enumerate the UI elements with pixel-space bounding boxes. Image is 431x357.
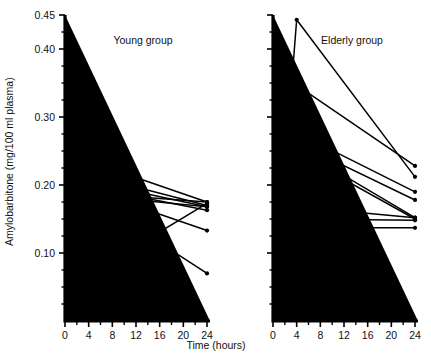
panel-elderly-axes: 04812162024 [267,15,421,341]
x-tick-label: 0 [62,329,68,341]
chart-svg: Amylobarbitone (mg/100 ml plasma) Time (… [0,0,431,357]
data-point [205,228,209,232]
x-axis-title: Time (hours) [186,339,245,351]
data-point [87,173,91,177]
x-tick-label: 4 [86,329,92,341]
data-point [413,164,417,168]
y-tick-label: 0.45 [35,9,56,21]
x-tick-label: 24 [201,329,213,341]
x-tick-label: 20 [177,329,189,341]
y-tick-label: 0.20 [35,179,56,191]
data-point [295,217,299,221]
x-tick-label: 16 [154,329,166,341]
data-point [295,226,299,230]
data-point [413,190,417,194]
x-tick-label: 8 [109,329,115,341]
x-tick-label: 0 [270,329,276,341]
panel-title-elderly: Elderly group [321,34,383,46]
data-point [295,83,299,87]
x-tick-label: 12 [338,329,350,341]
data-point [87,159,91,163]
y-tick-label: 0.10 [35,247,56,259]
data-point [87,194,91,198]
x-tick-label: 20 [385,329,397,341]
data-point [295,141,299,145]
y-tick-label: 0.40 [35,43,56,55]
x-tick-label: 12 [130,329,142,341]
data-point [295,151,299,155]
x-tick-label: 24 [409,329,421,341]
data-point [413,198,417,202]
panel-young-group: Young group 0.450.400.300.200.1004812162… [35,9,213,341]
data-point [87,180,91,184]
data-point [205,201,209,205]
panel-young-axes: 0.450.400.300.200.1004812162024 [35,9,213,341]
data-point [295,205,299,209]
data-point [295,146,299,150]
x-tick-label: 4 [294,329,300,341]
data-point [413,175,417,179]
x-tick-label: 16 [362,329,374,341]
data-point [413,218,417,222]
data-point [87,273,91,277]
x-tick-label: 8 [317,329,323,341]
data-point [295,18,299,22]
figure-root: Amylobarbitone (mg/100 ml plasma) Time (… [0,0,431,357]
panel-elderly-group: Elderly group 04812162024 [267,15,421,341]
data-point [205,271,209,275]
y-tick-label: 0.30 [35,111,56,123]
data-point [413,226,417,230]
y-axis-title: Amylobarbitone (mg/100 ml plasma) [3,77,15,246]
panel-title-young: Young group [113,34,172,46]
data-point [295,131,299,135]
